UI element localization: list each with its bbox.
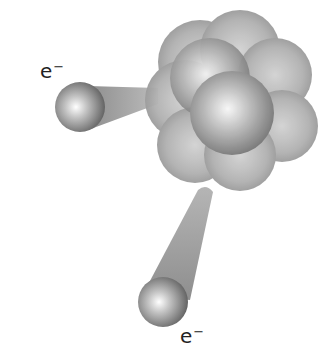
electron-charge: − [193, 324, 204, 339]
electron-charge: − [53, 59, 64, 74]
atom-diagram [0, 0, 335, 359]
electron-label-left: e− [40, 60, 64, 81]
electron-label-bottom: e− [180, 325, 204, 346]
electron-symbol: e [180, 324, 192, 348]
electron-bottom [138, 277, 188, 327]
electron-left [55, 82, 105, 132]
nucleus [145, 10, 318, 191]
electron-symbol: e [40, 59, 52, 83]
